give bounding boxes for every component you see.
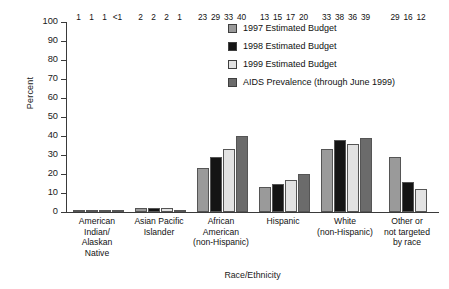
bar-wrapper: 1	[99, 22, 111, 212]
y-axis-tick: 50	[61, 117, 66, 118]
category-label-line: African	[190, 216, 252, 227]
bar-value-label: 2	[151, 13, 156, 22]
y-axis-tick-label: 90	[28, 35, 58, 45]
bar[interactable]: 15	[272, 184, 284, 213]
legend-item[interactable]: 1997 Estimated Budget	[228, 19, 443, 37]
bar[interactable]: 29	[210, 157, 222, 212]
category-label: AmericanIndian/AlaskanNative	[66, 216, 128, 258]
bar[interactable]: <1	[112, 210, 124, 212]
category-label: Asian PacificIslander	[128, 216, 190, 237]
bar-wrapper: 1	[73, 22, 85, 212]
bar-chart: Percent 0102030405060708090100 111<12221…	[0, 0, 449, 289]
bar[interactable]: 1	[86, 210, 98, 212]
legend-label: AIDS Prevalence (through June 1999)	[243, 77, 395, 87]
bar-group: 2221	[129, 22, 191, 212]
bar[interactable]: 33	[321, 149, 333, 212]
bar[interactable]: 36	[347, 144, 359, 212]
y-axis-tick-label: 30	[28, 149, 58, 159]
y-axis-tick: 70	[61, 79, 66, 80]
bar-value-label: 23	[198, 13, 207, 22]
bar[interactable]: 23	[197, 168, 209, 212]
bar[interactable]: 38	[334, 140, 346, 212]
bar[interactable]: 20	[298, 174, 310, 212]
y-axis-tick-label: 60	[28, 92, 58, 102]
legend-swatch	[228, 78, 237, 87]
bar-value-label: 1	[89, 13, 94, 22]
bar[interactable]: 2	[148, 208, 160, 212]
bar[interactable]: 33	[223, 149, 235, 212]
bar-value-label: 1	[102, 13, 107, 22]
y-axis-tick: 90	[61, 41, 66, 42]
bar-value-label: 2	[138, 13, 143, 22]
bar-wrapper: 2	[161, 22, 173, 212]
bar[interactable]: 1	[73, 210, 85, 212]
x-axis-title: Race/Ethnicity	[66, 270, 439, 280]
y-axis-tick: 30	[61, 155, 66, 156]
bar[interactable]: 16	[402, 182, 414, 212]
y-axis-tick-label: 50	[28, 111, 58, 121]
category-label-line: Islander	[128, 227, 190, 238]
category-label-line: Native	[66, 248, 128, 259]
bar[interactable]: 40	[236, 136, 248, 212]
bar-wrapper: 1	[174, 22, 186, 212]
bar[interactable]: 12	[415, 189, 427, 212]
category-label-line: by race	[376, 237, 438, 248]
category-label: Hispanic	[252, 216, 314, 227]
y-axis-tick: 100	[61, 22, 66, 23]
y-axis-tick-label: 80	[28, 54, 58, 64]
bar[interactable]: 1	[99, 210, 111, 212]
y-axis-tick: 0	[61, 212, 66, 213]
category-label-line: Other or	[376, 216, 438, 227]
bar[interactable]: 13	[259, 187, 271, 212]
legend-swatch	[228, 60, 237, 69]
y-axis-tick-label: 20	[28, 168, 58, 178]
bar-group: 111<1	[67, 22, 129, 212]
bar-wrapper: 2	[148, 22, 160, 212]
bar-value-label: 2	[164, 13, 169, 22]
y-axis-tick-label: 100	[28, 16, 58, 26]
category-label: White(non-Hispanic)	[314, 216, 376, 237]
y-axis-tick: 60	[61, 98, 66, 99]
legend: 1997 Estimated Budget1998 Estimated Budg…	[228, 19, 443, 91]
y-axis-tick-label: 70	[28, 73, 58, 83]
y-axis-tick: 20	[61, 174, 66, 175]
bar[interactable]: 39	[360, 138, 372, 212]
bar[interactable]: 2	[135, 208, 147, 212]
legend-label: 1999 Estimated Budget	[243, 59, 337, 69]
category-label-line: Alaskan	[66, 237, 128, 248]
y-axis-tick-label: 10	[28, 187, 58, 197]
bar[interactable]: 29	[389, 157, 401, 212]
legend-swatch	[228, 24, 237, 33]
bar-value-label: 29	[211, 13, 220, 22]
legend-item[interactable]: 1999 Estimated Budget	[228, 55, 443, 73]
bar-wrapper: 29	[210, 22, 222, 212]
y-axis-tick: 10	[61, 193, 66, 194]
bar[interactable]: 2	[161, 208, 173, 212]
category-label-line: Hispanic	[252, 216, 314, 227]
legend-label: 1998 Estimated Budget	[243, 41, 337, 51]
category-label-line: not targeted	[376, 227, 438, 238]
category-label-line: White	[314, 216, 376, 227]
category-label-line: Indian/	[66, 227, 128, 238]
category-label-line: (non-Hispanic)	[314, 227, 376, 238]
bar-value-label: 1	[76, 13, 81, 22]
bar[interactable]: 17	[285, 180, 297, 212]
y-axis-tick-label: 40	[28, 130, 58, 140]
y-axis-tick: 80	[61, 60, 66, 61]
category-label-line: (non-Hispanic)	[190, 237, 252, 248]
legend-item[interactable]: AIDS Prevalence (through June 1999)	[228, 73, 443, 91]
bar[interactable]: 1	[174, 210, 186, 212]
bar-wrapper: 2	[135, 22, 147, 212]
category-label: AfricanAmerican(non-Hispanic)	[190, 216, 252, 248]
bar-value-label: 1	[177, 13, 182, 22]
bar-value-label: <1	[113, 13, 122, 22]
legend-item[interactable]: 1998 Estimated Budget	[228, 37, 443, 55]
legend-label: 1997 Estimated Budget	[243, 23, 337, 33]
bar-wrapper: 1	[86, 22, 98, 212]
y-axis-tick-label: 0	[28, 206, 58, 216]
category-label: Other ornot targetedby race	[376, 216, 438, 248]
bar-wrapper: 23	[197, 22, 209, 212]
bar-wrapper: <1	[112, 22, 124, 212]
category-label-line: Asian Pacific	[128, 216, 190, 227]
legend-swatch	[228, 42, 237, 51]
